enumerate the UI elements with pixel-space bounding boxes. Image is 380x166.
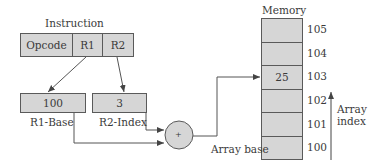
r2-field: R2 bbox=[102, 34, 133, 56]
instruction-box: Opcode R1 R2 bbox=[20, 33, 134, 57]
base-register-label: R1-Base bbox=[30, 116, 74, 128]
address-103: 103 bbox=[307, 70, 327, 82]
index-register-box: 3 bbox=[92, 93, 147, 113]
index-to-adder-arrow bbox=[146, 113, 164, 130]
memory-cell-104 bbox=[262, 42, 302, 66]
r2-to-index-arrow bbox=[117, 57, 124, 92]
base-register-box: 100 bbox=[20, 93, 86, 113]
memory-cell-105 bbox=[262, 19, 302, 42]
array-index-label-line2: index bbox=[337, 115, 366, 127]
address-102: 102 bbox=[307, 94, 327, 106]
memory-title: Memory bbox=[262, 4, 306, 16]
address-101: 101 bbox=[307, 118, 327, 130]
address-104: 104 bbox=[307, 47, 327, 59]
adder-symbol: + bbox=[175, 129, 182, 141]
r1-field: R1 bbox=[72, 34, 102, 56]
address-100: 100 bbox=[307, 141, 327, 153]
instruction-title: Instruction bbox=[45, 17, 104, 29]
memory-cell-101 bbox=[262, 112, 302, 136]
indexed-addressing-diagram: + Instruction Opcode R1 R2 100 R1-Base 3… bbox=[0, 0, 380, 166]
array-index-label-line1: Array bbox=[337, 103, 367, 115]
memory-cell-103: 25 bbox=[262, 65, 302, 89]
opcode-field: Opcode bbox=[21, 34, 72, 56]
address-105: 105 bbox=[307, 23, 327, 35]
adder-to-memory-arrow bbox=[193, 77, 260, 136]
memory-cell-102 bbox=[262, 89, 302, 113]
r1-to-base-arrow bbox=[48, 57, 86, 92]
index-register-label: R2-Index bbox=[99, 116, 147, 128]
array-base-label: Array base bbox=[211, 143, 269, 155]
memory-column: 25 bbox=[261, 18, 303, 160]
